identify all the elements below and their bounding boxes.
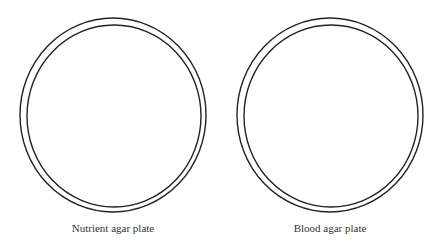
blood-agar-plate xyxy=(237,18,423,212)
nutrient-agar-plate xyxy=(20,18,206,212)
plate-inner-rim xyxy=(27,25,201,207)
nutrient-agar-plate-label: Nutrient agar plate xyxy=(72,222,154,234)
plate-outer-rim xyxy=(237,18,423,212)
blood-agar-plate-label: Blood agar plate xyxy=(294,222,367,234)
plate-outer-rim xyxy=(20,18,206,212)
plate-inner-rim xyxy=(244,25,418,207)
petri-dish-diagram xyxy=(0,0,441,243)
